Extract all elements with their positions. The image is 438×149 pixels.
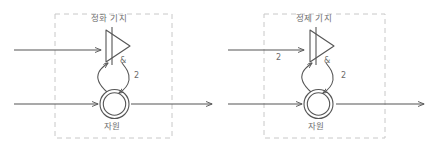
panel-left-feedback-multiplicity: 2: [134, 72, 139, 80]
panel-right-feedback-arrow-down: [323, 63, 333, 93]
panel-left-feedback-arrow-up: [98, 63, 108, 92]
panel-right-title: 정제 기지: [296, 14, 332, 23]
panel-left: [14, 14, 212, 138]
panel-right: [228, 14, 424, 138]
diagram-canvas: 정화 기지 & 2 자원 정제 기지 2 & 2 자원: [0, 0, 438, 149]
panel-left-boundary: [55, 14, 172, 138]
panel-right-feedback-arrow-up: [302, 63, 312, 92]
panel-left-title: 정화 기지: [91, 14, 127, 23]
panel-right-boundary: [264, 14, 385, 138]
panel-left-place-double-circle-icon: [100, 90, 129, 119]
panel-right-resource-label: 자원: [308, 122, 324, 131]
panel-right-feedback-multiplicity: 2: [341, 72, 346, 80]
panel-right-input-multiplicity: 2: [276, 54, 281, 62]
diagram-vector-layer: [0, 0, 438, 149]
panel-left-amp-label: &: [120, 57, 126, 65]
panel-left-resource-label: 자원: [104, 122, 120, 131]
panel-right-amp-label: &: [324, 57, 330, 65]
panel-left-feedback-arrow-down: [119, 63, 129, 93]
panel-right-place-double-circle-icon: [304, 90, 333, 119]
